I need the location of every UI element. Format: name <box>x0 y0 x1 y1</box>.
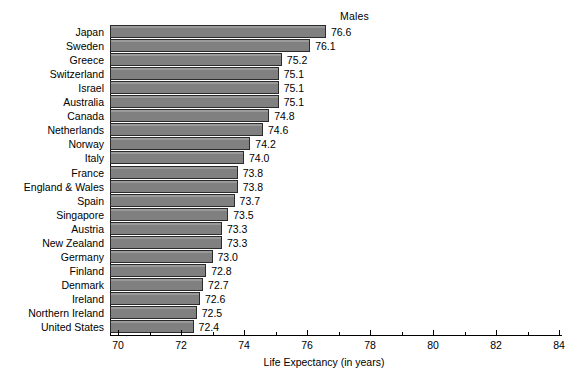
bar-value-label: 75.1 <box>284 67 304 81</box>
bar-highlight <box>111 251 212 253</box>
bar-highlight <box>111 265 205 267</box>
x-axis-tick-label: 74 <box>238 339 250 351</box>
category-label: Austria <box>0 222 104 236</box>
category-label: France <box>0 166 104 180</box>
x-axis-tick-label: 72 <box>175 339 187 351</box>
category-label: Norway <box>0 137 104 151</box>
x-axis-tick <box>118 330 119 335</box>
category-label: United States <box>0 320 104 334</box>
bar-highlight <box>111 40 309 42</box>
bar-highlight <box>111 293 199 295</box>
category-label: Sweden <box>0 39 104 53</box>
bar <box>110 67 279 80</box>
x-axis-minor-tick <box>213 332 214 335</box>
x-axis-minor-tick <box>465 332 466 335</box>
x-axis-tick-label: 70 <box>112 339 124 351</box>
x-axis-line <box>110 335 562 336</box>
bar <box>110 95 279 108</box>
bar <box>110 25 326 38</box>
x-axis-tick-label: 76 <box>301 339 313 351</box>
bar <box>110 151 244 164</box>
category-label: Spain <box>0 194 104 208</box>
bar <box>110 208 228 221</box>
bar <box>110 39 310 52</box>
category-label: Germany <box>0 250 104 264</box>
x-axis-tick-label: 84 <box>553 339 565 351</box>
bar-highlight <box>111 96 278 98</box>
bar-value-label: 76.1 <box>315 39 335 53</box>
plot-area: 76.676.175.275.175.175.174.874.674.274.0… <box>110 25 560 335</box>
series-title: Males <box>340 10 369 22</box>
bar <box>110 222 222 235</box>
bar-highlight <box>111 152 243 154</box>
bar <box>110 264 206 277</box>
bar-highlight <box>111 321 193 323</box>
bar <box>110 123 263 136</box>
bar-value-label: 72.8 <box>211 264 231 278</box>
category-label: Australia <box>0 95 104 109</box>
category-label: Denmark <box>0 278 104 292</box>
bar-highlight <box>111 54 281 56</box>
bar-highlight <box>111 138 249 140</box>
bar-value-label: 73.3 <box>227 236 247 250</box>
category-label: Netherlands <box>0 123 104 137</box>
bar <box>110 53 282 66</box>
bar-value-label: 73.3 <box>227 222 247 236</box>
category-axis-labels: JapanSwedenGreeceSwitzerlandIsraelAustra… <box>0 25 104 335</box>
category-label: Northern Ireland <box>0 306 104 320</box>
x-axis-minor-tick <box>339 332 340 335</box>
category-label: Canada <box>0 109 104 123</box>
bar-value-label: 74.2 <box>255 137 275 151</box>
bar-value-label: 73.7 <box>240 194 260 208</box>
x-axis-minor-tick <box>150 332 151 335</box>
bar-highlight <box>111 181 237 183</box>
bar <box>110 236 222 249</box>
category-label: Switzerland <box>0 67 104 81</box>
bar-value-label: 74.0 <box>249 151 269 165</box>
bar-highlight <box>111 26 325 28</box>
category-label: Singapore <box>0 208 104 222</box>
bar-value-label: 75.1 <box>284 95 304 109</box>
category-label: Ireland <box>0 292 104 306</box>
bar-highlight <box>111 279 202 281</box>
bar <box>110 81 279 94</box>
x-axis-tick <box>244 330 245 335</box>
bar-value-label: 73.8 <box>243 180 263 194</box>
x-axis-title: Life Expectancy (in years) <box>0 356 582 368</box>
x-axis-tick-label: 78 <box>364 339 376 351</box>
x-axis-tick-label: 82 <box>490 339 502 351</box>
life-expectancy-bar-chart: Males JapanSwedenGreeceSwitzerlandIsrael… <box>0 0 582 384</box>
bar <box>110 306 197 319</box>
x-axis-tick <box>496 330 497 335</box>
x-axis-tick <box>370 330 371 335</box>
category-label: Italy <box>0 151 104 165</box>
category-label: Greece <box>0 53 104 67</box>
bar-highlight <box>111 195 234 197</box>
bar <box>110 194 235 207</box>
bar-highlight <box>111 124 262 126</box>
bar-highlight <box>111 307 196 309</box>
bar-highlight <box>111 167 237 169</box>
category-label: Israel <box>0 81 104 95</box>
bar-value-label: 76.6 <box>331 25 351 39</box>
bar-highlight <box>111 82 278 84</box>
bar-value-label: 74.6 <box>268 123 288 137</box>
bar-highlight <box>111 209 227 211</box>
bar-value-label: 72.4 <box>199 320 219 334</box>
bar-value-label: 75.2 <box>287 53 307 67</box>
bar-value-label: 72.5 <box>202 306 222 320</box>
bar-value-label: 73.5 <box>233 208 253 222</box>
x-axis-minor-tick <box>528 332 529 335</box>
bar <box>110 292 200 305</box>
category-label: England & Wales <box>0 180 104 194</box>
x-axis-tick <box>307 330 308 335</box>
x-axis-tick <box>559 330 560 335</box>
bar-value-label: 73.8 <box>243 166 263 180</box>
bar-highlight <box>111 223 221 225</box>
bar-highlight <box>111 237 221 239</box>
bar-highlight <box>111 110 268 112</box>
bar <box>110 109 269 122</box>
bar <box>110 278 203 291</box>
category-label: New Zealand <box>0 236 104 250</box>
x-axis-minor-tick <box>276 332 277 335</box>
